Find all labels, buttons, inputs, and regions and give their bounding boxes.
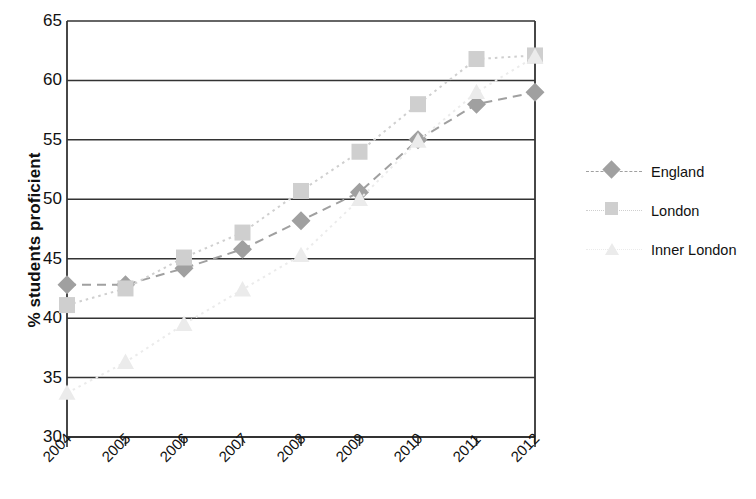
data-point-london-2006[interactable] — [176, 250, 192, 266]
data-point-london-2009[interactable] — [352, 144, 368, 160]
data-point-london-2008[interactable] — [293, 183, 309, 199]
legend-item-england[interactable]: England — [586, 152, 756, 191]
legend-item-london[interactable]: London — [586, 191, 756, 230]
data-point-inner-london-2007[interactable] — [234, 281, 251, 296]
data-point-inner-london-2004[interactable] — [59, 385, 76, 400]
chart-legend: England London Inner London — [586, 152, 756, 269]
data-point-london-2005[interactable] — [118, 280, 134, 296]
data-point-london-2010[interactable] — [410, 96, 426, 112]
data-point-london-2007[interactable] — [235, 225, 251, 241]
data-point-england-2004[interactable] — [58, 275, 77, 294]
legend-label-england: England — [642, 164, 704, 180]
legend-label-inner-london: Inner London — [642, 242, 736, 258]
data-point-inner-london-2005[interactable] — [117, 354, 134, 369]
legend-label-london: London — [642, 203, 699, 219]
data-point-england-2007[interactable] — [233, 240, 252, 259]
data-point-inner-london-2011[interactable] — [468, 84, 485, 99]
data-point-england-2012[interactable] — [526, 83, 545, 102]
data-point-london-2011[interactable] — [469, 51, 485, 67]
chart-container: % students proficient 3035404550556065 2… — [0, 0, 756, 499]
data-point-england-2008[interactable] — [292, 211, 311, 230]
data-point-london-2004[interactable] — [59, 297, 75, 313]
legend-item-inner-london[interactable]: Inner London — [586, 230, 756, 269]
legend-swatch-london — [586, 201, 642, 221]
legend-swatch-inner-london — [586, 240, 642, 260]
legend-swatch-england — [586, 162, 642, 182]
series-line-london — [67, 55, 535, 305]
